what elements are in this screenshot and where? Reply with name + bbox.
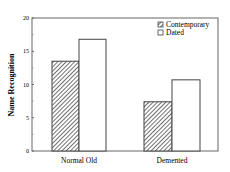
legend: ContemporaryDated <box>158 20 210 37</box>
legend-label-dated: Dated <box>166 28 184 37</box>
y-tick-label: 5 <box>26 115 29 121</box>
bar-contemporary-normal-old <box>52 61 79 151</box>
y-tick-label: 15 <box>23 48 29 54</box>
y-tick-label: 0 <box>26 148 29 154</box>
bar-chart: 05101520 Name Recognition Normal OldDeme… <box>0 0 230 172</box>
legend-swatch-contemporary <box>158 22 163 27</box>
bar-contemporary-demented <box>144 102 172 151</box>
y-tick-label: 10 <box>23 82 29 88</box>
x-tick-label: Demented <box>157 156 188 165</box>
bar-dated-demented <box>172 80 200 151</box>
x-tick-label: Normal Old <box>61 156 97 165</box>
y-tick-label: 20 <box>23 15 29 21</box>
x-axis-labels: Normal OldDemented <box>61 156 188 165</box>
bar-dated-normal-old <box>79 39 106 151</box>
bars-group <box>52 39 200 151</box>
legend-swatch-dated <box>158 30 163 35</box>
y-axis-label: Name Recognition <box>7 53 16 116</box>
